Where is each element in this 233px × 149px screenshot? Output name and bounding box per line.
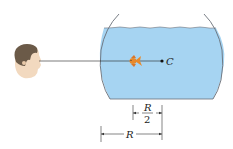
center-label: C <box>166 56 174 67</box>
observer-head-icon <box>15 44 42 78</box>
bowl-water <box>100 27 224 99</box>
dimension-radius: R <box>101 126 162 142</box>
fishbowl-diagram: C R 2 R <box>0 0 233 149</box>
half-radius-numerator: R <box>143 102 152 113</box>
half-radius-denominator: 2 <box>144 114 150 125</box>
radius-label: R <box>125 129 134 140</box>
center-point <box>160 59 163 62</box>
